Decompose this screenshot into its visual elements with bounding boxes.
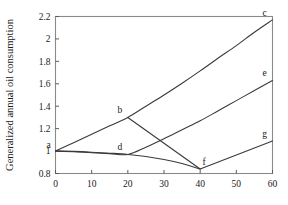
data-curves (56, 20, 273, 169)
point-label-a: a (46, 140, 51, 150)
point-label-b: b (117, 105, 122, 115)
y-tick-label: 2.2 (39, 12, 51, 22)
y-tick-label: 2 (46, 34, 51, 44)
point-label-f: f (203, 157, 207, 167)
x-tick-label: 10 (87, 179, 97, 189)
curve-point-labels: abcdefg (46, 8, 267, 167)
chart-figure: 0102030405060 0.811.21.41.61.822.2 abcde… (0, 0, 288, 205)
curve-a-b-c (56, 20, 273, 151)
y-tick-label: 0.8 (39, 169, 51, 179)
y-axis-title: Generalized annual oil consumption (4, 18, 15, 171)
y-axis-tick-labels: 0.811.21.41.61.822.2 (39, 12, 51, 179)
curve-b-f (128, 117, 200, 169)
point-label-e: e (262, 68, 266, 78)
point-label-g: g (262, 129, 267, 139)
x-tick-label: 50 (232, 179, 242, 189)
x-tick-label: 40 (195, 179, 205, 189)
oil-consumption-line-chart: 0102030405060 0.811.21.41.61.822.2 abcde… (0, 0, 288, 205)
x-tick-label: 20 (123, 179, 133, 189)
y-tick-label: 1.4 (39, 102, 51, 112)
y-tick-label: 1.8 (39, 57, 51, 67)
x-axis-tick-labels: 0102030405060 (53, 179, 277, 189)
x-tick-label: 0 (53, 179, 58, 189)
curve-f-g (200, 141, 272, 169)
x-tick-label: 30 (159, 179, 169, 189)
point-label-d: d (117, 142, 122, 152)
y-tick-label: 1.2 (39, 124, 51, 134)
point-label-c: c (262, 8, 266, 18)
y-tick-label: 1.6 (39, 79, 51, 89)
x-tick-label: 60 (268, 179, 278, 189)
